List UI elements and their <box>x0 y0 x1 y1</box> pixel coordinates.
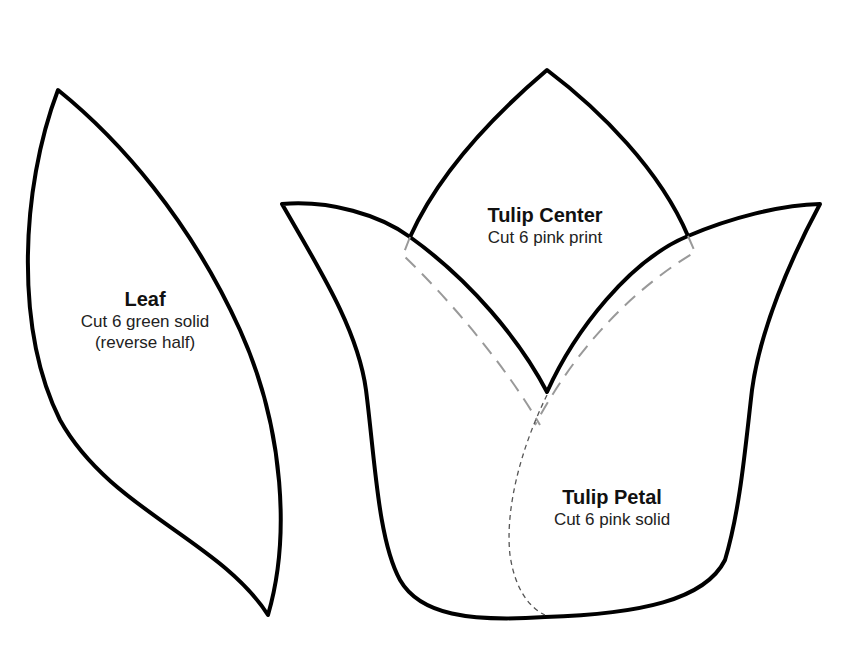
seam-allowance-left <box>403 237 540 425</box>
tulip-petal-outline <box>282 203 820 618</box>
leaf-note: (reverse half) <box>81 332 210 353</box>
tulip-center-instruction: Cut 6 pink print <box>487 227 602 248</box>
tulip-petal-label: Tulip Petal Cut 6 pink solid <box>554 485 670 530</box>
tulip-petal-title: Tulip Petal <box>554 485 670 509</box>
tulip-center-label: Tulip Center Cut 6 pink print <box>487 203 602 248</box>
tulip-center-title: Tulip Center <box>487 203 602 227</box>
petal-overlap-line <box>509 395 547 615</box>
seam-allowance-right <box>535 236 695 425</box>
leaf-instruction: Cut 6 green solid <box>81 311 210 332</box>
tulip-petal-instruction: Cut 6 pink solid <box>554 509 670 530</box>
leaf-label: Leaf Cut 6 green solid (reverse half) <box>81 287 210 353</box>
leaf-title: Leaf <box>81 287 210 311</box>
